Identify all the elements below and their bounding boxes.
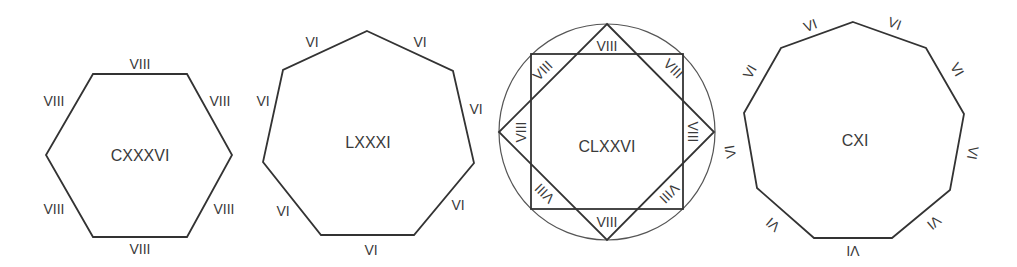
octagram-side-label: VIII (596, 38, 617, 54)
nonagon-side-label: VI (801, 16, 819, 36)
hexagon-side-label: VIII (209, 93, 230, 109)
hexagon-side-label: VIII (213, 201, 234, 217)
heptagon-center-label: LXXXI (345, 134, 390, 151)
nonagon-side-label: VI (924, 212, 944, 233)
nonagon-side-label: VI (721, 144, 739, 160)
nonagon-center-label: CXI (842, 132, 869, 149)
octagram-side-label: VIII (531, 180, 557, 206)
nonagon-side-label: VI (886, 14, 904, 34)
nonagon-side-label: VI (947, 60, 967, 79)
nonagon-side-label: VI (964, 145, 982, 161)
heptagon-side-label: VI (413, 34, 426, 50)
figure-stage: CXXXVI VIII VIII VIII VIII VIII VIII LXX… (0, 0, 1017, 267)
heptagon-side-label: VI (276, 203, 289, 219)
octagram-side-label: VIII (596, 214, 617, 230)
hexagon-side-label: VIII (129, 241, 150, 257)
nonagon-side-label: VI (846, 243, 859, 259)
nonagon-outline (744, 22, 964, 238)
octagram-side-label: VIII (513, 121, 529, 142)
octagram-side-label: VIII (685, 121, 701, 142)
octagram-side-label: VIII (656, 180, 682, 206)
heptagon-side-label: VI (469, 101, 482, 117)
heptagon-side-label: VI (364, 242, 377, 258)
hexagon-side-label: VIII (43, 93, 64, 109)
heptagon-side-label: VI (451, 197, 464, 213)
heptagon-outline (263, 31, 474, 235)
nonagon-side-label: VI (739, 62, 759, 81)
figure-canvas: CXXXVI VIII VIII VIII VIII VIII VIII LXX… (0, 0, 1017, 267)
hexagon-shape: CXXXVI VIII VIII VIII VIII VIII VIII (43, 56, 234, 257)
heptagon-side-label: VI (305, 34, 318, 50)
hexagon-side-label: VIII (129, 56, 150, 72)
nonagon-shape: CXI VI VI VI VI VI VI VI VI VI (721, 14, 982, 259)
heptagon-side-label: VI (256, 93, 269, 109)
hexagon-center-label: CXXXVI (111, 147, 170, 164)
hexagon-side-label: VIII (43, 201, 64, 217)
heptagon-shape: LXXXI VI VI VI VI VI VI VI (256, 31, 482, 258)
octagram-center-label: CLXXVI (579, 138, 636, 155)
nonagon-side-label: VI (763, 214, 783, 235)
octagram-shape: CLXXVI VIII VIII VIII VIII VIII VIII VII… (499, 24, 715, 240)
